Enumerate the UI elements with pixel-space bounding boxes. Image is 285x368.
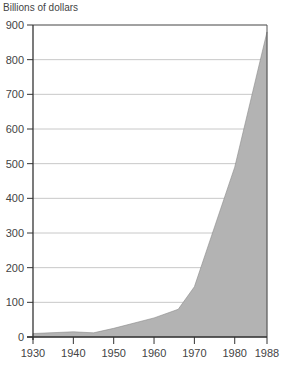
y-tick-label: 500 xyxy=(6,158,24,170)
x-tick-label: 1930 xyxy=(21,347,45,359)
y-tick-label: 600 xyxy=(6,123,24,135)
y-tick-label: 0 xyxy=(18,331,24,343)
y-tick-label: 400 xyxy=(6,192,24,204)
x-tick-label: 1980 xyxy=(222,347,246,359)
y-tick-label: 900 xyxy=(6,19,24,31)
y-tick-label: 100 xyxy=(6,296,24,308)
x-tick-label: 1970 xyxy=(182,347,206,359)
y-tick-label: 700 xyxy=(6,88,24,100)
x-tick-label: 1950 xyxy=(101,347,125,359)
y-tick-label: 200 xyxy=(6,262,24,274)
y-tick-label: 800 xyxy=(6,54,24,66)
x-tick-label: 1940 xyxy=(61,347,85,359)
x-tick-label: 1988 xyxy=(255,347,279,359)
y-tick-label: 300 xyxy=(6,227,24,239)
area-chart: 0100200300400500600700800900193019401950… xyxy=(0,0,285,368)
x-tick-label: 1960 xyxy=(142,347,166,359)
area-series xyxy=(33,32,267,337)
